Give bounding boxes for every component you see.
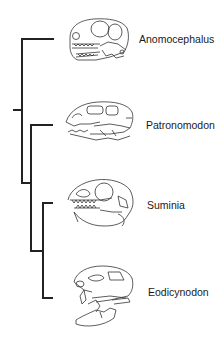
- taxon-label-anomocephalus: Anomocephalus: [139, 33, 214, 45]
- anomocephalus-skull-icon: [70, 19, 128, 60]
- patronomodon-skull-icon: [66, 102, 133, 140]
- taxon-label-suminia: Suminia: [147, 199, 185, 211]
- suminia-skull-icon: [68, 179, 133, 226]
- taxon-label-patronomodon: Patronomodon: [146, 119, 215, 131]
- taxon-label-eodicynodon: Eodicynodon: [148, 286, 209, 298]
- eodicynodon-skull-icon: [74, 266, 133, 326]
- cladogram-figure: Anomocephalus Patronomodon Suminia Eodic…: [0, 0, 224, 346]
